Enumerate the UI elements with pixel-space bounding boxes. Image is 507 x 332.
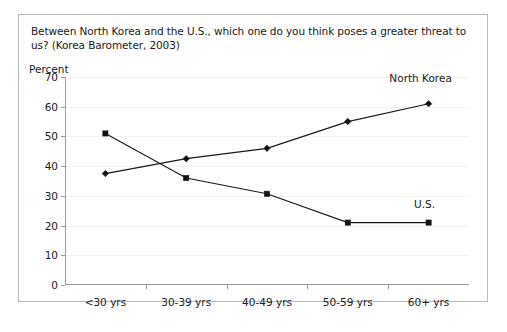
y-tick-label: 0: [51, 279, 58, 291]
x-tick-label: 60+ yrs: [408, 296, 450, 308]
y-tick-mark: [61, 285, 65, 286]
x-tick-mark: [146, 285, 147, 289]
y-tick-label: 60: [45, 101, 58, 113]
x-tick-label: 40-49 yrs: [242, 296, 292, 308]
y-tick-label: 10: [45, 249, 58, 261]
x-tick-mark: [388, 285, 389, 289]
series-annotations: North KoreaU.S.: [65, 77, 469, 285]
x-tick-mark: [307, 285, 308, 289]
x-tick-mark: [227, 285, 228, 289]
y-tick-label: 40: [45, 160, 58, 172]
series-label-us: U.S.: [414, 198, 435, 210]
chart-figure: Between North Korea and the U.S., which …: [18, 14, 488, 302]
plot-area: 010203040506070 <30 yrs30-39 yrs40-49 yr…: [65, 77, 469, 285]
x-tick-label: <30 yrs: [85, 296, 127, 308]
chart-title: Between North Korea and the U.S., which …: [31, 24, 477, 52]
x-tick-label: 30-39 yrs: [161, 296, 211, 308]
series-label-north-korea: North Korea: [389, 72, 451, 84]
x-tick-label: 50-59 yrs: [323, 296, 373, 308]
y-tick-label: 20: [45, 220, 58, 232]
y-tick-label: 70: [45, 71, 58, 83]
y-tick-label: 50: [45, 130, 58, 142]
y-tick-label: 30: [45, 190, 58, 202]
